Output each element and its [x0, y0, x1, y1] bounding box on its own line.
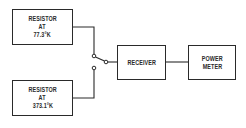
switch-contact-upper — [92, 54, 96, 58]
label-line: 373.1°K — [32, 102, 52, 110]
resistor-373k-block: RESISTOR AT 373.1°K — [12, 80, 73, 116]
switch-arm — [96, 57, 105, 61]
label-line: RECEIVER — [127, 59, 155, 67]
switch-contact-lower — [92, 66, 96, 70]
receiver-block: RECEIVER — [117, 45, 166, 80]
label-line: RESISTOR — [28, 86, 56, 94]
label-line: 77.3°K — [34, 31, 51, 39]
resistor-77k-block: RESISTOR AT 77.3°K — [12, 9, 73, 45]
wire-bottom-resistor — [72, 70, 94, 98]
label-line: AT — [39, 23, 46, 31]
label-line: POWER — [202, 55, 223, 63]
label-line: RESISTOR — [28, 15, 56, 23]
switch-pivot — [104, 60, 108, 64]
label-line: METER — [202, 63, 221, 71]
label-line: AT — [39, 94, 46, 102]
wire-top-resistor — [72, 27, 94, 54]
power-meter-block: POWER METER — [188, 45, 236, 80]
